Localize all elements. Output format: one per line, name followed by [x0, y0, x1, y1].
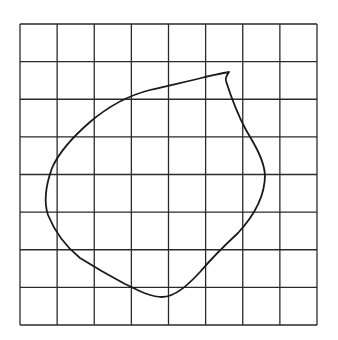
- closed-curve: [46, 72, 265, 297]
- grid-lines: [20, 24, 317, 325]
- grid-figure: [0, 0, 338, 340]
